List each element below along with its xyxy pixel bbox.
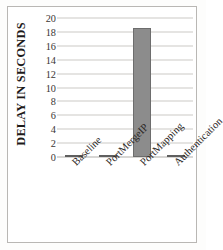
y-axis-tick-label: 16 — [46, 40, 56, 51]
y-axis-tick-label: 4 — [51, 124, 56, 135]
bar-slot — [65, 18, 83, 157]
y-axis-tick-labels: 20181614121086420 — [34, 13, 56, 163]
y-axis-tick-label: 8 — [51, 96, 56, 107]
x-axis-category-labels: BaselinePortMergeIPPortMappingAuthentica… — [57, 160, 193, 238]
chart-figure: DELAY IN SECONDS 20181614121086420 Basel… — [0, 0, 206, 250]
y-axis-tick-label: 10 — [46, 82, 56, 93]
y-axis-tick-label: 14 — [46, 54, 56, 65]
y-axis-title-container: DELAY IN SECONDS — [8, 8, 34, 160]
y-axis-tick-label: 12 — [46, 68, 56, 79]
bar-slot — [99, 18, 117, 157]
y-axis-tick-label: 20 — [46, 13, 56, 24]
y-axis-tick-label: 0 — [51, 152, 56, 163]
y-axis-tick-label: 6 — [51, 110, 56, 121]
y-axis-tick-label: 2 — [51, 138, 56, 149]
y-axis-tick-label: 18 — [46, 26, 56, 37]
y-axis-title: DELAY IN SECONDS — [14, 22, 29, 145]
